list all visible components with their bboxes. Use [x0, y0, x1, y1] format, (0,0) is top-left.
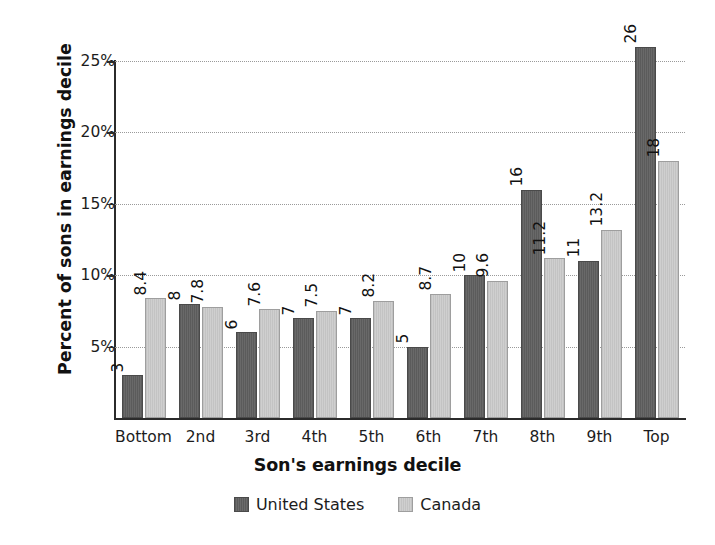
- x-axis-tick-labels: Bottom2nd3rd4th5th6th7th8th9thTop: [115, 428, 685, 452]
- bar-canada: 7.6: [259, 309, 280, 418]
- bar-value-label: 3: [111, 362, 127, 372]
- bar-value-label: 7.6: [248, 282, 264, 307]
- bar-value-label: 10: [453, 252, 469, 272]
- chart-legend: United StatesCanada: [0, 495, 715, 514]
- bar-united-states: 11: [578, 261, 599, 418]
- bar-value-label: 13.2: [590, 192, 606, 227]
- bar-united-states: 8: [179, 304, 200, 418]
- bar-united-states: 26: [635, 47, 656, 418]
- bar-canada: 8.2: [373, 301, 394, 418]
- bar-value-label: 7: [339, 305, 355, 315]
- bar-value-label: 18: [647, 138, 663, 158]
- bar-value-label: 26: [624, 24, 640, 44]
- x-tick-label: 7th: [473, 428, 499, 446]
- bar-value-label: 11.2: [533, 221, 549, 256]
- x-tick-label: 4th: [302, 428, 328, 446]
- bar-united-states: 3: [122, 375, 143, 418]
- bar-value-label: 8: [168, 291, 184, 301]
- bar-value-label: 5: [396, 334, 412, 344]
- bar-united-states: 5: [407, 347, 428, 418]
- legend-label: United States: [256, 495, 364, 514]
- legend-item[interactable]: Canada: [398, 495, 481, 514]
- bar-canada: 9.6: [487, 281, 508, 418]
- dark-gray-swatch: [234, 497, 249, 512]
- bar-canada: 8.7: [430, 294, 451, 418]
- x-tick-label: 8th: [530, 428, 556, 446]
- bar-chart: Percent of sons in earnings decile 5%10%…: [0, 0, 715, 545]
- x-tick-label: 2nd: [186, 428, 216, 446]
- bar-value-label: 8.2: [362, 273, 378, 298]
- bar-united-states: 6: [236, 332, 257, 418]
- bar-value-label: 9.6: [476, 253, 492, 278]
- bar-value-label: 7.8: [191, 279, 207, 304]
- bar-united-states: 7: [350, 318, 371, 418]
- bar-value-label: 11: [567, 238, 583, 258]
- bar-value-label: 7.5: [305, 283, 321, 308]
- bar-value-label: 6: [225, 319, 241, 329]
- bar-value-label: 7: [282, 305, 298, 315]
- bar-canada: 8.4: [145, 298, 166, 418]
- x-tick-label: Bottom: [115, 428, 172, 446]
- light-gray-swatch: [398, 497, 413, 512]
- legend-item[interactable]: United States: [234, 495, 364, 514]
- bar-value-label: 8.4: [134, 270, 150, 295]
- x-tick-label: Top: [643, 428, 669, 446]
- bar-canada: 13.2: [601, 230, 622, 418]
- x-tick-label: 5th: [359, 428, 385, 446]
- x-tick-label: 6th: [416, 428, 442, 446]
- bar-canada: 11.2: [544, 258, 565, 418]
- bar-united-states: 7: [293, 318, 314, 418]
- bar-canada: 7.8: [202, 307, 223, 418]
- bar-value-label: 16: [510, 167, 526, 187]
- bar-canada: 7.5: [316, 311, 337, 418]
- legend-label: Canada: [420, 495, 481, 514]
- bar-value-label: 8.7: [419, 266, 435, 291]
- x-axis-title: Son's earnings decile: [0, 455, 715, 475]
- x-tick-label: 3rd: [245, 428, 271, 446]
- bar-canada: 18: [658, 161, 679, 418]
- x-tick-label: 9th: [587, 428, 613, 446]
- bar-united-states: 10: [464, 275, 485, 418]
